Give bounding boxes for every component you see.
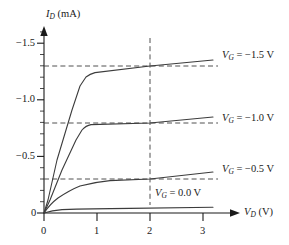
x-axis <box>44 209 240 216</box>
x-axis-title: VD (V) <box>244 207 273 218</box>
y-axis-major-ticks <box>37 43 44 213</box>
drain-characteristics-figure: ID (mA) VD (V) −1.5 −1.0 −0.5 0 0 1 2 3 … <box>0 0 289 245</box>
y-tick-label-minus-0p5: −0.5 <box>16 151 35 162</box>
curve-vg-0p0 <box>44 207 213 213</box>
vg-value: = −0.5 V <box>236 163 274 174</box>
vg-value: = −1.5 V <box>236 49 274 60</box>
vg-value: = −1.0 V <box>236 112 274 123</box>
curve-label-vg-zero: VG = 0.0 V <box>155 188 201 199</box>
y-tick-label-minus-1p0: −1.0 <box>16 94 35 105</box>
y-axis-title: ID (mA) <box>46 9 80 20</box>
vg-subscript: G <box>161 191 166 200</box>
y-axis-minor-ticks <box>40 32 44 202</box>
y-tick-label-zero: 0 <box>31 208 36 219</box>
vg-value: = 0.0 V <box>169 187 201 198</box>
x-tick-label-3: 3 <box>200 226 205 237</box>
y-axis <box>40 26 47 213</box>
curve-label-vg-minus-1p5: VG = −1.5 V <box>222 50 274 61</box>
vg-subscript: G <box>228 167 233 176</box>
y-tick-label-minus-1p5: −1.5 <box>16 38 35 49</box>
vg-subscript: G <box>228 53 233 62</box>
y-axis-title-unit: (mA) <box>58 8 81 19</box>
x-axis-major-ticks <box>44 213 203 221</box>
x-tick-label-0: 0 <box>41 226 46 237</box>
curve-label-vg-minus-1p0: VG = −1.0 V <box>222 113 274 124</box>
curve-label-vg-minus-0p5: VG = −0.5 V <box>222 164 274 175</box>
x-axis-title-unit: (V) <box>258 206 273 217</box>
vg-subscript: G <box>228 116 233 125</box>
x-tick-label-1: 1 <box>94 226 99 237</box>
x-tick-label-2: 2 <box>147 226 152 237</box>
